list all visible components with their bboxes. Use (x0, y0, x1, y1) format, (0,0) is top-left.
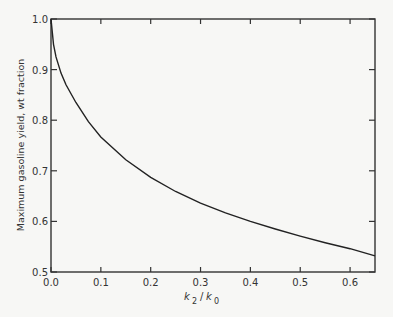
plot-frame (51, 19, 375, 272)
svg-text:/: / (200, 291, 204, 302)
y-tick-label: 1.0 (32, 14, 48, 25)
y-tick-label: 0.7 (32, 166, 48, 177)
svg-text:2: 2 (192, 297, 197, 306)
svg-text:k: k (206, 291, 213, 302)
y-tick-label: 0.9 (32, 65, 48, 76)
x-tick-label: 0.6 (342, 277, 358, 288)
line-chart: 0.00.10.20.30.40.50.60.50.60.70.80.91.0 … (0, 0, 393, 317)
y-tick-label: 0.5 (32, 267, 48, 278)
x-axis-label: k 2 / k 0 (184, 291, 219, 306)
x-tick-label: 0.3 (193, 277, 209, 288)
x-tick-label: 0.4 (242, 277, 258, 288)
x-tick-label: 0.5 (292, 277, 308, 288)
x-tick-label: 0.2 (143, 277, 159, 288)
y-axis-label: Maximum gasoline yield, wt fraction (15, 59, 26, 231)
svg-text:k: k (184, 291, 191, 302)
x-tick-label: 0.1 (93, 277, 109, 288)
y-tick-label: 0.8 (32, 115, 48, 126)
yield-curve (51, 19, 375, 256)
svg-text:0: 0 (214, 297, 219, 306)
x-tick-label: 0.0 (43, 277, 59, 288)
y-tick-label: 0.6 (32, 216, 48, 227)
